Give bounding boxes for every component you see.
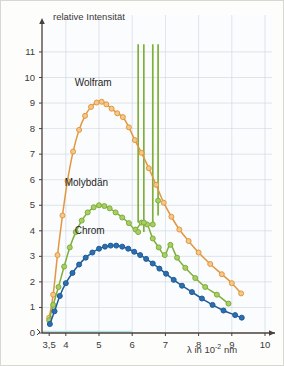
x-tick-label: 7: [154, 339, 176, 350]
y-tick-label: 0: [15, 327, 35, 338]
x-tick-label: 9: [221, 339, 243, 350]
series-label-wolfram: Wolfram: [75, 77, 112, 88]
y-tick-label: 10: [15, 72, 35, 83]
x-tick-label: 4: [55, 339, 77, 350]
x-tick-label: 5: [88, 339, 110, 350]
y-tick-label: 3: [15, 250, 35, 261]
series-label-chrom: Chrom: [75, 225, 105, 236]
chart-canvas: [1, 1, 284, 366]
series-label-molybdn: Molybdän: [65, 177, 108, 188]
x-tick-label: 10: [254, 339, 276, 350]
y-tick-label: 9: [15, 97, 35, 108]
y-axis-title: relative Intensität: [53, 11, 125, 22]
y-tick-label: 6: [15, 174, 35, 185]
y-tick-label: 8: [15, 123, 35, 134]
y-tick-label: 5: [15, 199, 35, 210]
y-tick-label: 4: [15, 225, 35, 236]
x-tick-label: 8: [188, 339, 210, 350]
y-tick-label: 11: [15, 46, 35, 57]
y-tick-label: 2: [15, 276, 35, 287]
x-tick-label: 6: [121, 339, 143, 350]
y-tick-label: 7: [15, 148, 35, 159]
y-tick-label: 1: [15, 301, 35, 312]
xray-spectrum-figure: relative Intensität λ in 10-2 nm 0123456…: [0, 0, 284, 366]
